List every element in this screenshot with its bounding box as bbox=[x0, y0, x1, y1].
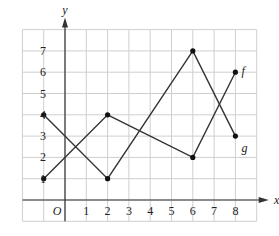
y-tick-label: 4 bbox=[40, 108, 46, 122]
y-tick-label: 3 bbox=[40, 129, 46, 143]
data-point bbox=[190, 155, 195, 160]
y-axis-label: y bbox=[61, 3, 68, 17]
y-axis-arrow-icon bbox=[62, 18, 68, 28]
axes bbox=[22, 18, 268, 222]
function-graph: fg 123456781234567Oxy bbox=[0, 0, 279, 236]
x-axis-label: x bbox=[273, 193, 279, 207]
y-tick-label: 5 bbox=[40, 87, 46, 101]
x-tick-label: 6 bbox=[190, 204, 196, 218]
tick-labels: 123456781234567Oxy bbox=[40, 3, 279, 218]
x-axis-arrow-icon bbox=[259, 197, 269, 203]
x-tick-label: 7 bbox=[211, 204, 217, 218]
x-tick-label: 4 bbox=[147, 204, 153, 218]
series-label-f: f bbox=[241, 64, 246, 78]
origin-label: O bbox=[53, 204, 62, 218]
x-tick-label: 5 bbox=[169, 204, 175, 218]
grid bbox=[22, 30, 256, 222]
x-tick-label: 1 bbox=[83, 204, 89, 218]
data-point bbox=[233, 134, 238, 139]
data-point bbox=[190, 48, 195, 53]
y-tick-label: 6 bbox=[40, 65, 46, 79]
series-f-line bbox=[44, 72, 236, 179]
x-tick-label: 3 bbox=[126, 204, 132, 218]
y-tick-label: 1 bbox=[40, 172, 46, 186]
x-tick-label: 2 bbox=[105, 204, 111, 218]
data-point bbox=[233, 70, 238, 75]
data-point bbox=[105, 176, 110, 181]
y-tick-label: 2 bbox=[40, 150, 46, 164]
x-tick-label: 8 bbox=[232, 204, 238, 218]
series-label-g: g bbox=[241, 141, 247, 155]
data-point bbox=[105, 112, 110, 117]
y-tick-label: 7 bbox=[40, 44, 46, 58]
